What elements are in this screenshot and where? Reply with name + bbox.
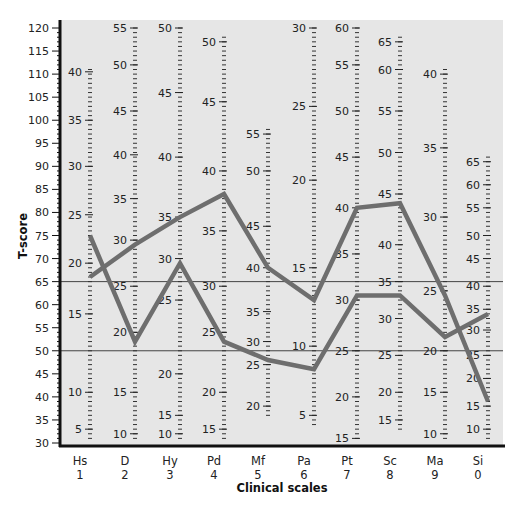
- raw-score-label: 55: [466, 202, 480, 215]
- raw-score-label: 20: [335, 391, 349, 404]
- raw-score-label: 30: [246, 336, 260, 349]
- raw-score-label: 25: [378, 349, 392, 362]
- raw-score-label: 20: [113, 326, 127, 339]
- raw-score-label: 30: [335, 294, 349, 307]
- raw-score-label: 5: [299, 409, 306, 422]
- raw-score-label: 55: [378, 105, 392, 118]
- raw-score-label: 5: [75, 423, 82, 436]
- x-category-number: 0: [474, 468, 481, 482]
- x-category-label: Pt: [341, 454, 353, 468]
- y-tick-label: 45: [35, 368, 49, 381]
- x-category-number: 8: [386, 468, 393, 482]
- raw-score-label: 20: [202, 386, 216, 399]
- raw-score-label: 60: [378, 64, 392, 77]
- raw-score-label: 15: [378, 414, 392, 427]
- plot-area: [60, 20, 503, 446]
- raw-score-label: 55: [113, 22, 127, 35]
- x-category-label: Hy: [162, 454, 178, 468]
- raw-score-label: 40: [68, 66, 82, 79]
- raw-score-label: 35: [378, 276, 392, 289]
- x-category-label: Si: [473, 454, 484, 468]
- raw-score-label: 25: [68, 209, 82, 222]
- x-category-number: 2: [121, 468, 128, 482]
- x-category-label: Mf: [251, 454, 266, 468]
- raw-score-label: 20: [292, 174, 306, 187]
- raw-score-label: 35: [466, 303, 480, 316]
- raw-score-label: 50: [202, 36, 216, 49]
- x-category-label: D: [121, 454, 130, 468]
- raw-score-label: 60: [466, 179, 480, 192]
- raw-score-label: 40: [335, 202, 349, 215]
- raw-score-label: 45: [113, 105, 127, 118]
- raw-score-label: 65: [378, 36, 392, 49]
- raw-score-label: 45: [466, 253, 480, 266]
- raw-score-label: 40: [113, 149, 127, 162]
- y-tick-label: 40: [35, 391, 49, 404]
- y-tick-label: 70: [35, 253, 49, 266]
- raw-score-label: 35: [68, 114, 82, 127]
- raw-score-label: 30: [292, 22, 306, 35]
- raw-score-label: 15: [158, 409, 172, 422]
- y-tick-label: 115: [28, 45, 49, 58]
- x-axis: Hs1D2Hy3Pd4Mf5Pa6Pt7Sc8Ma9Si0: [59, 446, 505, 482]
- x-category-number: 3: [166, 468, 173, 482]
- raw-score-label: 15: [423, 386, 437, 399]
- raw-score-label: 50: [246, 165, 260, 178]
- raw-score-label: 50: [335, 105, 349, 118]
- raw-score-label: 30: [158, 253, 172, 266]
- y-tick-label: 100: [28, 114, 49, 127]
- raw-score-label: 50: [378, 147, 392, 160]
- raw-score-label: 30: [68, 160, 82, 173]
- raw-score-label: 15: [335, 432, 349, 445]
- raw-score-label: 40: [378, 239, 392, 252]
- x-category-number: 6: [300, 468, 307, 482]
- raw-score-label: 60: [335, 22, 349, 35]
- raw-score-label: 25: [292, 100, 306, 113]
- y-tick-label: 120: [28, 22, 49, 35]
- raw-score-label: 10: [292, 340, 306, 353]
- raw-score-label: 30: [423, 211, 437, 224]
- raw-score-label: 35: [202, 225, 216, 238]
- y-tick-label: 35: [35, 414, 49, 427]
- x-category-number: 4: [210, 468, 217, 482]
- raw-score-label: 40: [202, 165, 216, 178]
- y-tick-label: 75: [35, 230, 49, 243]
- y-tick-label: 90: [35, 160, 49, 173]
- x-category-number: 5: [254, 468, 261, 482]
- raw-score-label: 45: [158, 87, 172, 100]
- raw-score-label: 10: [158, 428, 172, 441]
- raw-score-label: 25: [335, 345, 349, 358]
- y-tick-label: 55: [35, 322, 49, 335]
- x-category-number: 7: [343, 468, 350, 482]
- y-axis-title: T-score: [16, 213, 30, 259]
- mmpi-profile-chart: 4035302520151055550454035302520151050454…: [0, 0, 514, 508]
- raw-score-label: 50: [466, 230, 480, 243]
- x-category-label: Sc: [383, 454, 397, 468]
- x-axis-title: Clinical scales: [237, 481, 328, 495]
- raw-score-label: 25: [423, 285, 437, 298]
- y-tick-label: 30: [35, 437, 49, 450]
- raw-score-label: 10: [68, 386, 82, 399]
- raw-score-label: 45: [378, 188, 392, 201]
- raw-score-label: 20: [423, 345, 437, 358]
- y-tick-label: 60: [35, 299, 49, 312]
- raw-score-label: 20: [158, 368, 172, 381]
- y-tick-label: 95: [35, 137, 49, 150]
- x-category-label: Pd: [207, 454, 221, 468]
- y-tick-label: 110: [28, 68, 49, 81]
- y-tick-label: 105: [28, 91, 49, 104]
- raw-score-label: 20: [378, 386, 392, 399]
- x-category-number: 1: [76, 468, 83, 482]
- raw-score-label: 50: [158, 22, 172, 35]
- y-axis: 3035404550556065707580859095100105110115…: [28, 20, 60, 450]
- raw-score-label: 15: [466, 400, 480, 413]
- raw-score-label: 45: [335, 151, 349, 164]
- raw-score-label: 20: [246, 400, 260, 413]
- raw-score-label: 40: [246, 262, 260, 275]
- x-category-number: 9: [431, 468, 438, 482]
- raw-score-label: 50: [113, 59, 127, 72]
- raw-score-label: 10: [113, 428, 127, 441]
- raw-score-label: 30: [202, 280, 216, 293]
- raw-score-label: 15: [113, 386, 127, 399]
- raw-score-label: 35: [113, 193, 127, 206]
